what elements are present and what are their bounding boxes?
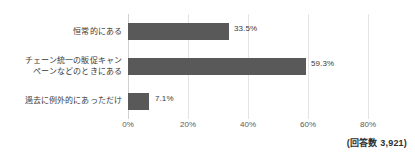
category-axis-labels: 恒常的にある チェーン統一の販促キャン ペーンなどのときにある 過去に例外的にあ… bbox=[0, 14, 122, 119]
bar-1 bbox=[128, 58, 306, 75]
category-label-1: チェーン統一の販促キャン ペーンなどのときにある bbox=[0, 55, 122, 77]
gridline-80 bbox=[368, 14, 369, 119]
x-axis-tick-labels: 0% 20% 40% 60% 80% bbox=[128, 120, 368, 134]
bar-value-1: 59.3% bbox=[311, 59, 334, 68]
bar-value-0: 33.5% bbox=[234, 24, 257, 33]
x-tick-label-80: 80% bbox=[360, 120, 376, 129]
category-label-2-line-0: 過去に例外的にあっただけ bbox=[0, 95, 122, 106]
x-tick-label-0: 0% bbox=[122, 120, 134, 129]
bar-2 bbox=[128, 93, 149, 110]
category-label-0: 恒常的にある bbox=[0, 26, 122, 37]
bar-row-2: 7.1% bbox=[128, 84, 368, 119]
x-tick-label-60: 60% bbox=[300, 120, 316, 129]
bar-row-1: 59.3% bbox=[128, 49, 368, 84]
bar-0 bbox=[128, 23, 229, 40]
bar-value-2: 7.1% bbox=[155, 94, 174, 103]
category-label-2: 過去に例外的にあっただけ bbox=[0, 95, 122, 106]
x-tick-label-40: 40% bbox=[240, 120, 256, 129]
category-label-1-line-0: チェーン統一の販促キャン bbox=[0, 55, 122, 66]
category-label-1-line-1: ペーンなどのときにある bbox=[0, 66, 122, 77]
plot-area: 33.5% 59.3% 7.1% bbox=[128, 14, 368, 119]
x-tick-label-20: 20% bbox=[180, 120, 196, 129]
response-count-annotation: (回答数 3,921) bbox=[347, 136, 407, 149]
bar-row-0: 33.5% bbox=[128, 14, 368, 49]
category-label-0-line-0: 恒常的にある bbox=[0, 26, 122, 37]
bar-chart: 恒常的にある チェーン統一の販促キャン ペーンなどのときにある 過去に例外的にあ… bbox=[0, 0, 415, 154]
